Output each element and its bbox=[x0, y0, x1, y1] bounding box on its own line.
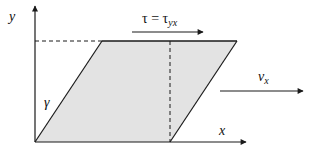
velocity-label: vx bbox=[258, 70, 269, 86]
tau-subscript: yx bbox=[168, 17, 177, 28]
x-axis-label: x bbox=[219, 124, 225, 138]
shear-angle-label: γ bbox=[44, 96, 50, 110]
equals-sign: = bbox=[148, 11, 163, 26]
sheared-element bbox=[35, 41, 237, 142]
y-axis-label: y bbox=[9, 10, 15, 24]
shear-stress-label: τ = τyx bbox=[142, 12, 177, 28]
velocity-subscript: x bbox=[264, 75, 268, 86]
